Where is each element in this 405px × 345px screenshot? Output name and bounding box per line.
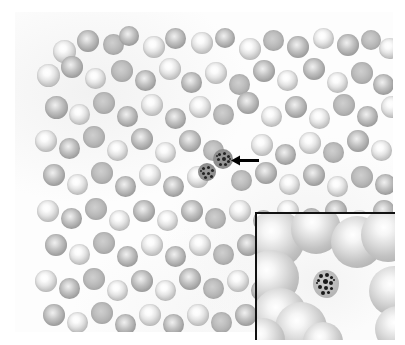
red-blood-cell (231, 170, 252, 191)
red-blood-cell (43, 304, 65, 326)
red-blood-cell (117, 106, 138, 127)
magnified-parasitized-rbc (313, 270, 339, 298)
red-blood-cell (91, 162, 113, 184)
red-blood-cell (43, 164, 65, 186)
red-blood-cell (141, 234, 163, 256)
red-blood-cell (351, 62, 373, 84)
red-blood-cell (337, 34, 359, 56)
red-blood-cell (303, 58, 325, 80)
parasitized-rbc-arrowed (213, 149, 233, 169)
chromatin-granule (316, 282, 318, 284)
chromatin-granule (333, 279, 335, 281)
red-blood-cell (93, 92, 115, 114)
chromatin-granule (224, 163, 227, 166)
red-blood-cell (361, 30, 381, 50)
red-blood-cell (347, 130, 369, 152)
chromatin-granule (211, 169, 214, 172)
red-blood-cell (61, 208, 82, 229)
red-blood-cell (77, 30, 99, 52)
red-blood-cell (131, 128, 153, 150)
red-blood-cell (251, 134, 273, 156)
red-blood-cell (205, 62, 227, 84)
red-blood-cell (165, 28, 186, 49)
chromatin-granule (324, 286, 328, 290)
red-blood-cell (277, 70, 298, 91)
red-blood-cell (139, 304, 161, 326)
red-blood-cell (333, 94, 355, 116)
red-blood-cell (37, 64, 60, 87)
red-blood-cell (37, 200, 59, 222)
red-blood-cell (157, 210, 178, 231)
red-blood-cell (253, 60, 275, 82)
red-blood-cell (235, 304, 257, 326)
red-blood-cell (59, 138, 80, 159)
chromatin-granule (327, 291, 330, 294)
red-blood-cell (159, 58, 181, 80)
red-blood-cell (107, 140, 128, 161)
red-blood-cell (299, 132, 321, 154)
red-blood-cell (117, 246, 138, 267)
red-blood-cell (115, 176, 136, 197)
chromatin-granule (321, 291, 325, 295)
chromatin-granule (207, 166, 210, 169)
red-blood-cell (69, 244, 90, 265)
red-blood-cell (163, 176, 184, 197)
red-blood-cell (85, 68, 106, 89)
red-blood-cell (239, 38, 261, 60)
red-blood-cell (165, 108, 186, 129)
red-blood-cell (275, 144, 296, 165)
red-blood-cell (67, 174, 88, 195)
chromatin-granule (200, 170, 202, 172)
red-blood-cell (181, 72, 202, 93)
red-blood-cell (83, 126, 105, 148)
red-blood-cell (91, 302, 113, 324)
red-blood-cell (179, 130, 201, 152)
red-blood-cell (279, 174, 300, 195)
red-blood-cell (45, 234, 67, 256)
chromatin-granule (216, 155, 218, 157)
red-blood-cell (191, 32, 213, 54)
red-blood-cell (189, 234, 211, 256)
red-blood-cell (215, 28, 235, 48)
red-blood-cell (327, 72, 348, 93)
chromatin-granule (318, 285, 322, 289)
red-blood-cell (373, 74, 393, 95)
red-blood-cell (111, 60, 133, 82)
red-blood-cell (61, 56, 83, 78)
magnified-inset (255, 212, 395, 340)
red-blood-cell (179, 268, 201, 290)
red-blood-cell (165, 246, 186, 267)
red-blood-cell (379, 38, 393, 59)
red-blood-cell (327, 176, 348, 197)
pointer-arrow (231, 154, 259, 167)
red-blood-cell (313, 28, 334, 49)
chromatin-granule (202, 167, 205, 170)
red-blood-cell (69, 104, 90, 125)
parasitized-rbc-second (198, 163, 216, 181)
red-blood-cell (67, 312, 88, 332)
red-blood-cell (375, 174, 393, 195)
red-blood-cell (187, 304, 209, 326)
red-blood-cell (227, 270, 249, 292)
inset-red-blood-cell (375, 306, 395, 340)
red-blood-cell (107, 280, 128, 301)
red-blood-cell (35, 130, 57, 152)
red-blood-cell (59, 278, 80, 299)
red-blood-cell (381, 96, 393, 118)
red-blood-cell (131, 270, 153, 292)
red-blood-cell (139, 164, 161, 186)
chromatin-granule (202, 172, 205, 175)
red-blood-cell (119, 26, 139, 46)
red-blood-cell (109, 210, 130, 231)
chromatin-granule (330, 287, 333, 290)
chromatin-granule (323, 279, 328, 284)
red-blood-cell (115, 314, 136, 332)
chromatin-granule (325, 273, 329, 277)
red-blood-cell (309, 108, 330, 129)
red-blood-cell (229, 200, 251, 222)
chromatin-granule (219, 163, 222, 166)
red-blood-cell (287, 36, 309, 58)
red-blood-cell (357, 106, 378, 127)
red-blood-cell (213, 104, 234, 125)
red-blood-cell (141, 94, 163, 116)
